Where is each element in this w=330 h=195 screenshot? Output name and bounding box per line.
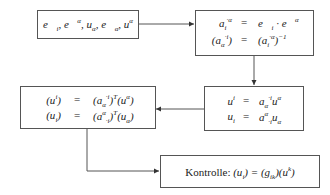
box3-row2-lhs: ui	[213, 110, 235, 125]
box2-row1-lhs: ai·α	[202, 16, 232, 32]
box3-row1-rhs: aα·iuα	[259, 94, 281, 110]
box2-row2-rhs: (ai·α)−1	[258, 33, 286, 49]
box-matrix-form: (ui) = (aα·i)T(uα) (ui) = (aα·i)T(uα)	[20, 86, 156, 129]
box-verification: Kontrolle: (ui) = (gik)(uk)	[160, 155, 320, 188]
arrow-box4-to-box5	[87, 128, 159, 171]
box-component-transformation: ui = aα·iuα ui = aα·iuα	[204, 86, 304, 131]
box2-row2-eq: =	[236, 33, 252, 45]
box3-row1-eq: =	[239, 94, 253, 106]
box4-row1-eq: =	[69, 93, 85, 105]
box4-row1-lhs: (ui)	[33, 93, 61, 106]
box5-label: Kontrolle:	[185, 166, 230, 178]
box2-row1-eq: =	[236, 16, 252, 28]
box5-text: Kontrolle: (ui) = (gik)(uk)	[161, 165, 319, 181]
box4-row2-rhs: (aα·i)T(uα)	[93, 109, 134, 125]
box2-row1-rhs: e⃗i · e⃗α	[258, 16, 299, 32]
box-basis-vectors: e⃗i, e⃗α, uα, e⃗α, uα	[37, 10, 139, 39]
box4-row2-lhs: (ui)	[33, 109, 61, 124]
box4-row2-eq: =	[69, 109, 85, 121]
box5-formula: (ui) = (gik)(uk)	[233, 166, 295, 178]
box4-row1-rhs: (aα·i)T(uα)	[93, 93, 134, 109]
box3-row2-eq: =	[239, 110, 253, 122]
box1-text: e⃗i, e⃗α, uα, e⃗α, uα	[38, 17, 138, 33]
box3-row1-lhs: ui	[213, 94, 235, 107]
box3-row2-rhs: aα·iuα	[259, 110, 281, 126]
box2-row2-lhs: (aα·i)	[202, 33, 232, 49]
box-transformation-coefficients: ai·α = e⃗i · e⃗α (aα·i) = (ai·α)−1	[195, 10, 314, 56]
